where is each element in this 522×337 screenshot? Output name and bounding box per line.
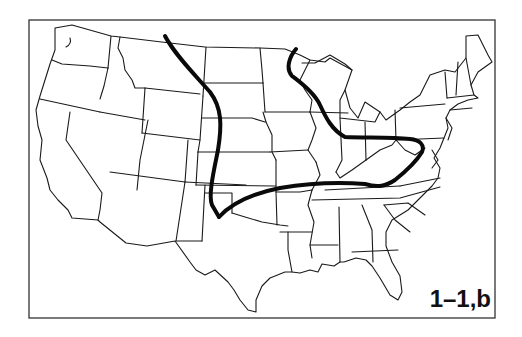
state-boundaries	[36, 25, 492, 312]
vt-nh-border	[456, 62, 458, 95]
red-river	[232, 213, 288, 226]
co-nm-border	[185, 182, 246, 185]
ms-al-border	[339, 207, 340, 262]
ia-il-border	[308, 112, 316, 162]
sd-ia-border	[263, 112, 266, 122]
nd-mn-border	[260, 48, 263, 83]
ct-ri-border	[450, 108, 472, 110]
puget-sound	[66, 38, 71, 47]
ky-wv-border	[366, 140, 396, 160]
ut-az-border	[110, 172, 185, 182]
wy-sd-ne-border	[198, 96, 203, 152]
sd-mn-border	[263, 83, 265, 112]
ma-border	[447, 95, 474, 98]
oh-pa-border	[395, 110, 396, 140]
wa-id-border	[108, 36, 111, 68]
overlay-curves	[165, 36, 423, 217]
ks-ok-border	[196, 185, 275, 186]
ok-ar-border	[276, 192, 277, 225]
va-nc-border	[400, 178, 440, 186]
ne-ia-border	[266, 122, 276, 160]
ca-nv-border	[66, 112, 102, 220]
il-in-border	[336, 118, 342, 172]
ia-mo-border	[270, 150, 308, 152]
wy-id-border	[142, 88, 145, 133]
id-nv-ut-border	[100, 112, 145, 120]
ky-tn-border	[325, 186, 400, 190]
id-mt-border	[118, 37, 145, 88]
or-ca-nv-border	[40, 99, 100, 112]
mi-upper	[302, 55, 352, 70]
nh-me-border	[466, 58, 471, 85]
ga-fl-border	[352, 250, 398, 252]
in-oh-border	[365, 122, 366, 160]
wa-or-border	[52, 60, 108, 68]
wi-il-border	[310, 112, 348, 113]
nm-east-border	[202, 185, 205, 241]
southern-boundary-curve	[219, 49, 423, 217]
western-boundary-curve	[165, 36, 220, 217]
sd-ne-border	[202, 118, 265, 122]
figure-label: 1–1,b	[430, 285, 491, 313]
mt-wy-border	[145, 88, 200, 94]
tn-ms-al-ga	[312, 187, 440, 200]
la-ms-border	[310, 245, 312, 258]
co-ks-border	[196, 152, 198, 185]
tx-la-border	[288, 232, 292, 272]
wy-ut-co-border	[142, 133, 200, 140]
ny-vt-border	[445, 72, 447, 98]
ar-ms-border	[308, 190, 338, 245]
ut-co-border	[185, 140, 188, 182]
or-id-border	[100, 68, 108, 99]
az-nm-border	[176, 182, 185, 241]
al-ga-border	[362, 205, 373, 262]
